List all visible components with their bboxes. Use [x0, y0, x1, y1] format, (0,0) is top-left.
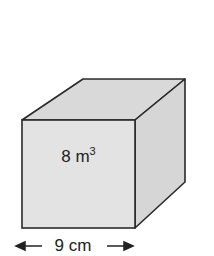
edge-length-label: 9 cm — [14, 236, 132, 256]
volume-exponent: 3 — [90, 145, 96, 157]
cube-front-face — [22, 120, 135, 228]
cube-diagram — [0, 0, 214, 256]
volume-label: 8 m3 — [22, 145, 135, 167]
